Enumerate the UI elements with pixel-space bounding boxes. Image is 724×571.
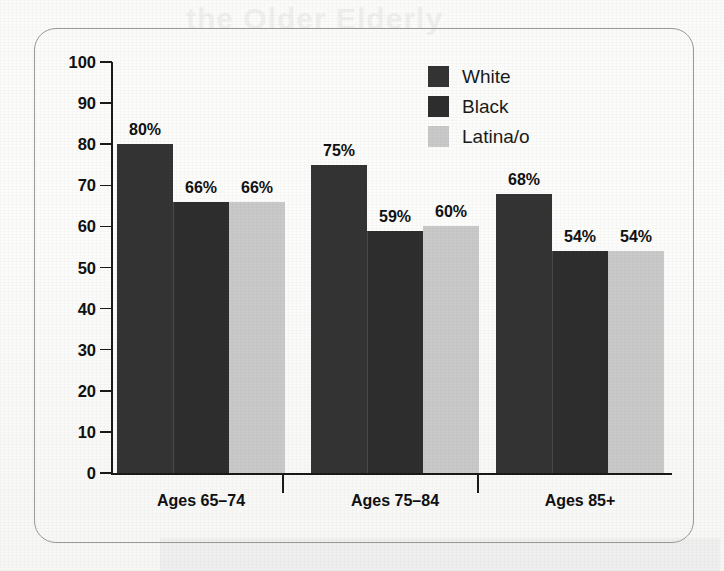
legend-item-label: Black: [462, 97, 508, 116]
legend-item-label: Latina/o: [462, 127, 530, 146]
chart-legend: WhiteBlackLatina/o: [428, 62, 530, 152]
legend-swatch-latino: [428, 126, 449, 147]
legend-item: Latina/o: [428, 122, 530, 151]
chart-page: the Older Elderly 1009080706050403020100…: [0, 0, 724, 571]
legend-swatch-white: [428, 66, 449, 87]
legend-swatch-black: [428, 96, 449, 117]
legend-item-label: White: [462, 67, 511, 86]
legend-item: Black: [428, 92, 530, 121]
chart-border-frame: [34, 28, 694, 543]
legend-item: White: [428, 62, 530, 91]
